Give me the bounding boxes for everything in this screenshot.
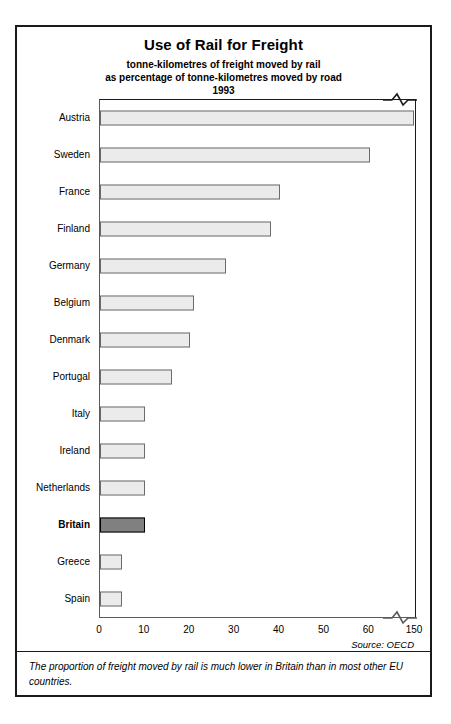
bar-denmark (100, 333, 190, 348)
bar-ireland (100, 443, 145, 458)
category-label-spain: Spain (64, 592, 90, 603)
x-tick-20: 20 (183, 624, 194, 635)
bar-austria (100, 111, 414, 126)
category-label-britain: Britain (58, 518, 90, 529)
x-tick-60: 60 (363, 624, 374, 635)
x-axis: 0102030405060150 (99, 620, 416, 640)
bar-netherlands (100, 480, 145, 495)
x-tick-10: 10 (138, 624, 149, 635)
footnote-divider (17, 651, 430, 652)
category-label-greece: Greece (57, 555, 90, 566)
plot-frame (99, 99, 416, 618)
chart-title: Use of Rail for Freight (17, 36, 430, 53)
x-tick-30: 30 (228, 624, 239, 635)
category-label-italy: Italy (72, 407, 90, 418)
bar-germany (100, 259, 226, 274)
category-label-finland: Finland (57, 223, 90, 234)
bar-spain (100, 591, 122, 606)
category-label-sweden: Sweden (54, 149, 90, 160)
x-tick-0: 0 (96, 624, 102, 635)
chart-year: 1993 (17, 85, 430, 96)
plot-area: AustriaSwedenFranceFinlandGermanyBelgium… (17, 99, 430, 644)
chart-figure: Use of Rail for Freight tonne-kilometres… (15, 25, 432, 697)
chart-title-block: Use of Rail for Freight tonne-kilometres… (17, 27, 430, 96)
source-note: Source: OECD (351, 639, 414, 650)
chart-subtitle-line-1: tonne-kilometres of freight moved by rai… (17, 58, 430, 71)
chart-subtitle-line-2: as percentage of tonne-kilometres moved … (17, 71, 430, 84)
axis-break-top-icon (383, 93, 417, 106)
category-label-portugal: Portugal (53, 370, 90, 381)
category-label-germany: Germany (49, 260, 90, 271)
bar-finland (100, 222, 271, 237)
x-tick-50: 50 (318, 624, 329, 635)
category-label-denmark: Denmark (49, 334, 90, 345)
bar-sweden (100, 148, 370, 163)
bar-belgium (100, 296, 194, 311)
bar-greece (100, 554, 122, 569)
bar-italy (100, 406, 145, 421)
category-label-france: France (59, 186, 90, 197)
category-label-belgium: Belgium (54, 297, 90, 308)
bar-france (100, 185, 280, 200)
category-label-netherlands: Netherlands (36, 481, 90, 492)
category-label-column: AustriaSwedenFranceFinlandGermanyBelgium… (17, 99, 99, 618)
category-label-austria: Austria (59, 112, 90, 123)
x-tick-40: 40 (273, 624, 284, 635)
footnote-text: The proportion of freight moved by rail … (29, 659, 416, 689)
x-tick-150: 150 (406, 624, 423, 635)
bar-portugal (100, 369, 172, 384)
category-label-ireland: Ireland (59, 444, 90, 455)
bar-britain (100, 517, 145, 532)
